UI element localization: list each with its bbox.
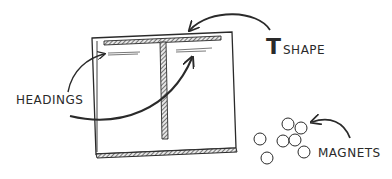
- t-shape-arrow: [190, 14, 270, 30]
- magnet: [289, 134, 301, 146]
- magnets-arrow: [312, 120, 350, 138]
- magnet: [282, 118, 294, 130]
- magnets-label: MAGNETS: [318, 146, 381, 160]
- magnet: [277, 135, 289, 147]
- headings-label: HEADINGS: [16, 93, 84, 107]
- magnet: [261, 152, 273, 164]
- diagram-canvas: HEADINGS T SHAPE MAGNETS: [0, 0, 392, 179]
- t-letter-label: T: [266, 34, 282, 59]
- magnet: [254, 133, 266, 145]
- magnet-cluster: [254, 118, 310, 164]
- magnet: [295, 122, 307, 134]
- shape-label: SHAPE: [283, 43, 325, 57]
- magnet: [298, 146, 310, 158]
